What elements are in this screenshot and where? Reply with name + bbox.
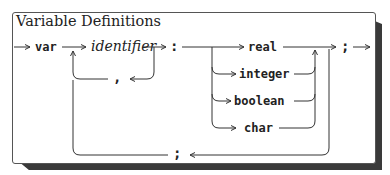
outer-loop-out	[73, 80, 168, 155]
loop-semicolon: ;	[173, 145, 181, 161]
comma-loop-out	[73, 51, 108, 79]
merge-integer	[294, 50, 315, 74]
type-integer: integer	[239, 67, 290, 81]
branch-char	[212, 47, 236, 128]
keyword-var: var	[35, 40, 57, 54]
syntax-diagram: var identifier : , real integer boolean …	[0, 0, 390, 175]
branch-integer	[212, 67, 236, 74]
identifier-node: identifier	[91, 38, 157, 54]
merge-boolean	[294, 94, 315, 101]
type-char: char	[244, 121, 273, 135]
comma-node: ,	[113, 69, 121, 85]
branch-boolean	[212, 94, 231, 101]
exit-semicolon: ;	[341, 38, 349, 54]
type-boolean: boolean	[234, 94, 285, 108]
type-real: real	[248, 40, 277, 54]
colon-node: :	[170, 38, 178, 54]
